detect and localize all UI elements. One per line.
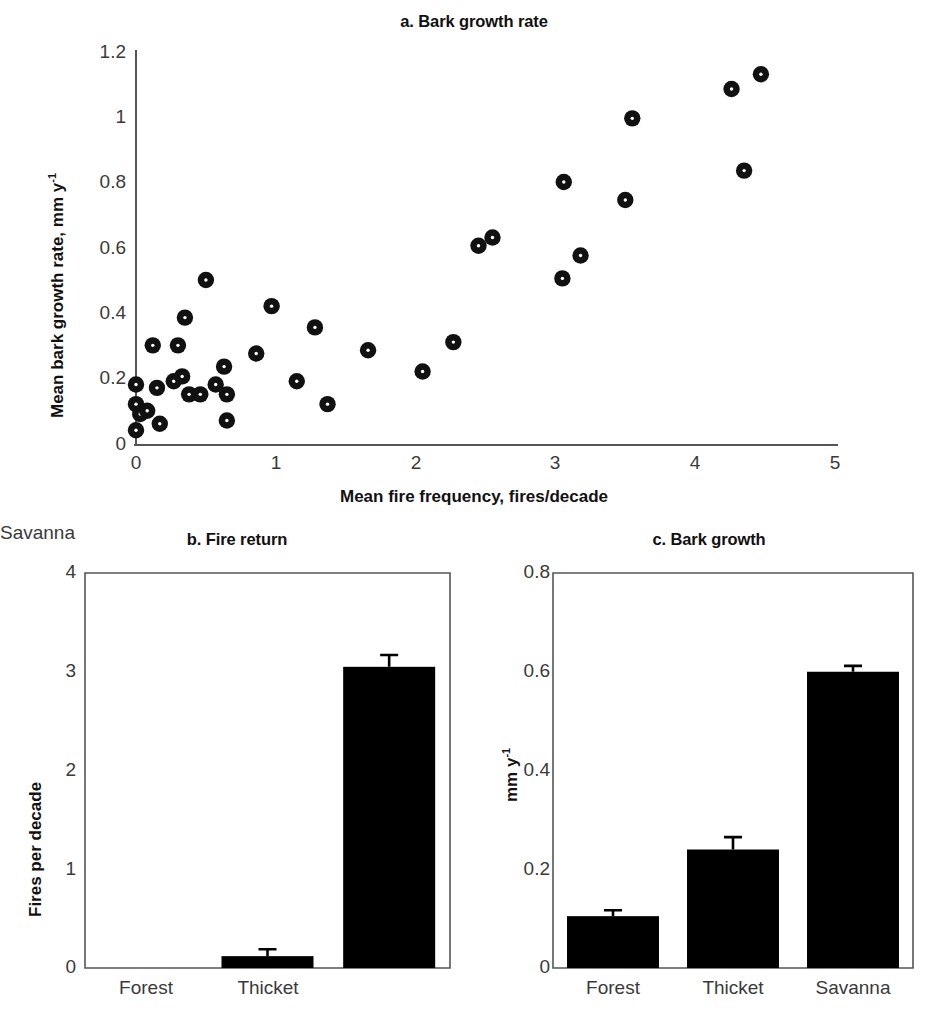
scatter-point-center (326, 402, 329, 405)
scatter-point-center (222, 365, 225, 368)
scatter-point-center (491, 236, 494, 239)
panel-a-plot-area (0, 0, 948, 520)
error-bar (724, 837, 742, 849)
panel-c-plot-area (470, 522, 948, 1024)
scatter-point-center (151, 344, 154, 347)
scatter-point-center (158, 422, 161, 425)
scatter-point-center (187, 393, 190, 396)
scatter-point-center (730, 87, 733, 90)
scatter-point-center (631, 117, 634, 120)
error-bar (844, 666, 862, 672)
scatter-point-center (214, 383, 217, 386)
scatter-point-center (452, 340, 455, 343)
bar (807, 672, 899, 968)
panel-b-bar-group (222, 655, 436, 968)
scatter-point-center (134, 383, 137, 386)
panel-b-plot-area (0, 522, 474, 1024)
scatter-point-center (742, 169, 745, 172)
error-bar (259, 949, 277, 956)
panel-c-bar-group (567, 666, 899, 968)
scatter-point-center (145, 409, 148, 412)
scatter-point-center (134, 429, 137, 432)
scatter-point-center (176, 344, 179, 347)
error-bar (380, 655, 398, 667)
figure-root: a. Bark growth rate Mean bark growth rat… (0, 0, 948, 1024)
scatter-point-center (295, 380, 298, 383)
scatter-point-group (128, 66, 769, 438)
scatter-point-center (155, 386, 158, 389)
scatter-point-center (204, 278, 207, 281)
scatter-point-center (180, 375, 183, 378)
scatter-point-center (183, 316, 186, 319)
scatter-point-center (366, 349, 369, 352)
scatter-point-center (134, 402, 137, 405)
bar (567, 916, 659, 968)
scatter-point-center (421, 370, 424, 373)
scatter-point-center (759, 73, 762, 76)
panel-b-bar-chart: b. Fire return Fires per decade 4 3 2 1 … (0, 522, 474, 1024)
scatter-point-center (579, 254, 582, 257)
scatter-point-center (313, 326, 316, 329)
bar (343, 667, 435, 968)
scatter-point-center (270, 304, 273, 307)
scatter-point-center (561, 277, 564, 280)
bar (687, 850, 779, 969)
bar (222, 956, 314, 968)
scatter-point-center (477, 244, 480, 247)
scatter-point-center (562, 180, 565, 183)
scatter-point-center (225, 393, 228, 396)
panel-c-bar-chart: c. Bark growth mm y-1 0.8 0.6 0.4 0.2 0 … (470, 522, 948, 1024)
scatter-point-center (199, 393, 202, 396)
scatter-point-center (255, 352, 258, 355)
error-bar (604, 910, 622, 916)
scatter-point-center (624, 198, 627, 201)
panel-a-scatter: a. Bark growth rate Mean bark growth rat… (0, 0, 948, 520)
scatter-point-center (225, 419, 228, 422)
